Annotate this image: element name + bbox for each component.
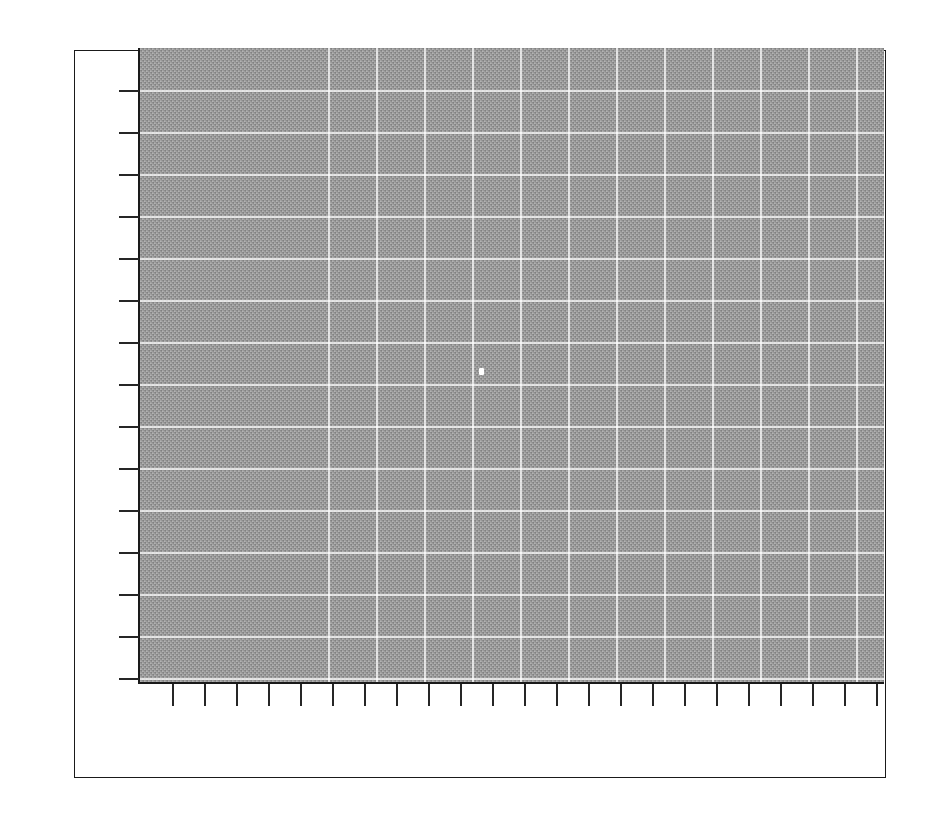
y-tick-mark xyxy=(119,594,139,596)
x-tick-mark xyxy=(396,684,398,706)
gridline-vertical xyxy=(904,48,906,682)
x-tick-mark xyxy=(428,684,430,706)
x-tick-mark xyxy=(268,684,270,706)
y-tick-mark xyxy=(119,216,139,218)
y-tick-mark xyxy=(119,384,139,386)
x-tick-mark xyxy=(588,684,590,706)
x-tick-mark xyxy=(876,684,878,706)
x-tick-mark xyxy=(300,684,302,706)
y-tick-mark xyxy=(119,678,139,680)
y-tick-mark xyxy=(119,636,139,638)
x-tick-mark xyxy=(492,684,494,706)
x-tick-mark xyxy=(364,684,366,706)
y-tick-mark xyxy=(119,552,139,554)
data-point-marker xyxy=(479,368,484,375)
y-axis-spine xyxy=(138,48,140,682)
x-axis-spine xyxy=(138,682,884,684)
x-tick-mark xyxy=(652,684,654,706)
x-tick-mark xyxy=(716,684,718,706)
x-tick-mark xyxy=(844,684,846,706)
x-tick-mark xyxy=(236,684,238,706)
y-tick-mark xyxy=(119,90,139,92)
y-tick-mark xyxy=(119,174,139,176)
y-tick-mark xyxy=(119,426,139,428)
x-tick-mark xyxy=(684,684,686,706)
x-tick-mark xyxy=(204,684,206,706)
x-tick-mark xyxy=(748,684,750,706)
x-tick-mark xyxy=(556,684,558,706)
x-tick-mark xyxy=(780,684,782,706)
x-tick-mark xyxy=(460,684,462,706)
y-tick-mark xyxy=(119,510,139,512)
plot-background xyxy=(140,48,884,682)
y-tick-mark xyxy=(119,468,139,470)
x-tick-mark xyxy=(620,684,622,706)
x-tick-mark xyxy=(812,684,814,706)
y-tick-mark xyxy=(119,132,139,134)
y-tick-mark xyxy=(119,258,139,260)
y-tick-mark xyxy=(119,342,139,344)
y-tick-mark xyxy=(119,300,139,302)
plot-axes[interactable] xyxy=(140,48,884,682)
x-tick-mark xyxy=(332,684,334,706)
x-tick-mark xyxy=(524,684,526,706)
x-tick-mark xyxy=(172,684,174,706)
figure-root xyxy=(0,0,936,824)
